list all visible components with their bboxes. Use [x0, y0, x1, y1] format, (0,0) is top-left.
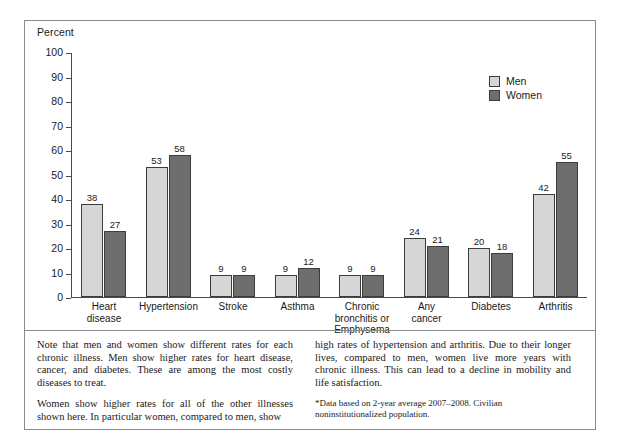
y-tick-mark — [66, 200, 71, 201]
bar-value-label: 9 — [370, 263, 375, 274]
caption-paragraph: Note that men and women show different r… — [37, 339, 293, 389]
bar-women: 12 — [298, 268, 320, 297]
caption-column-right: high rates of hypertension and arthritis… — [315, 339, 571, 429]
x-axis-category-label: Hypertension — [132, 301, 206, 313]
bar-value-label: 21 — [432, 234, 443, 245]
caption-paragraph: Women show higher rates for all of the o… — [37, 398, 293, 423]
y-tick-label: 10 — [33, 267, 63, 279]
bar-value-label: 20 — [474, 236, 485, 247]
bar-women: 9 — [233, 275, 255, 297]
y-tick-mark — [66, 53, 71, 54]
bar-women: 18 — [491, 253, 513, 297]
y-tick-label: 40 — [33, 193, 63, 205]
caption-column-left: Note that men and women show different r… — [37, 339, 293, 429]
figure-panel: Percent 0102030405060708090100 3827Heart… — [24, 20, 596, 430]
x-axis-category-label: Diabetes — [454, 301, 528, 313]
bar-women: 21 — [427, 246, 449, 297]
chart-legend: Men Women — [489, 74, 542, 102]
bar-value-label: 9 — [283, 263, 288, 274]
y-tick-mark — [66, 298, 71, 299]
y-tick-label: 70 — [33, 120, 63, 132]
y-tick-label: 20 — [33, 242, 63, 254]
caption-paragraph: high rates of hypertension and arthritis… — [315, 339, 571, 389]
bar-women: 9 — [362, 275, 384, 297]
bar-men: 9 — [210, 275, 232, 297]
bar-group: 3827Heart disease — [78, 52, 135, 297]
bar-group: 912Asthma — [272, 52, 329, 297]
y-tick-label: 30 — [33, 218, 63, 230]
bar-value-label: 9 — [241, 263, 246, 274]
bar-value-label: 9 — [347, 263, 352, 274]
bar-women: 58 — [169, 155, 191, 297]
bar-men: 53 — [146, 167, 168, 297]
bar-value-label: 9 — [218, 263, 223, 274]
y-axis-title: Percent — [37, 26, 74, 38]
bar-women: 55 — [556, 162, 578, 297]
bar-men: 9 — [339, 275, 361, 297]
x-axis-category-label: Heart disease — [67, 301, 141, 324]
y-axis-line — [71, 53, 72, 298]
y-tick-mark — [66, 102, 71, 103]
bar-men: 24 — [404, 238, 426, 297]
bar-men: 42 — [533, 194, 555, 297]
y-tick-mark — [66, 176, 71, 177]
legend-item-women: Women — [489, 88, 542, 102]
legend-label-women: Women — [506, 89, 542, 101]
x-axis-category-label: Any cancer — [390, 301, 464, 324]
bar-men: 38 — [81, 204, 103, 297]
x-axis-line — [71, 297, 587, 298]
bar-value-label: 53 — [151, 155, 162, 166]
legend-swatch-women-icon — [489, 90, 500, 101]
x-axis-category-label: Arthritis — [519, 301, 593, 313]
y-tick-label: 100 — [33, 46, 63, 58]
caption-footnote: *Data based on 2-year average 2007–2008.… — [315, 398, 571, 420]
bar-value-label: 55 — [561, 150, 572, 161]
bar-value-label: 58 — [174, 143, 185, 154]
bar-value-label: 27 — [110, 219, 121, 230]
bar-men: 9 — [275, 275, 297, 297]
legend-label-men: Men — [506, 75, 526, 87]
y-tick-mark — [66, 127, 71, 128]
x-axis-category-label: Asthma — [261, 301, 335, 313]
bar-men: 20 — [468, 248, 490, 297]
y-tick-mark — [66, 151, 71, 152]
bar-group: 99Stroke — [207, 52, 264, 297]
chart-region: Percent 0102030405060708090100 3827Heart… — [25, 21, 595, 310]
bar-value-label: 38 — [87, 192, 98, 203]
bar-group: 5358Hypertension — [143, 52, 200, 297]
y-tick-label: 50 — [33, 169, 63, 181]
legend-item-men: Men — [489, 74, 542, 88]
x-axis-category-label: Stroke — [196, 301, 270, 313]
y-tick-mark — [66, 225, 71, 226]
y-tick-label: 60 — [33, 144, 63, 156]
legend-swatch-men-icon — [489, 76, 500, 87]
y-tick-mark — [66, 274, 71, 275]
y-tick-mark — [66, 78, 71, 79]
y-tick-mark — [66, 249, 71, 250]
caption-block: Note that men and women show different r… — [25, 331, 595, 429]
bar-value-label: 12 — [303, 256, 314, 267]
bar-group: 2421Any cancer — [401, 52, 458, 297]
bar-value-label: 24 — [409, 226, 420, 237]
y-tick-label: 80 — [33, 95, 63, 107]
y-tick-label: 0 — [33, 291, 63, 303]
bar-value-label: 18 — [497, 241, 508, 252]
y-tick-label: 90 — [33, 71, 63, 83]
bar-group: 99Chronic bronchitis or Emphysema — [336, 52, 393, 297]
bar-women: 27 — [104, 231, 126, 297]
bar-value-label: 42 — [538, 182, 549, 193]
